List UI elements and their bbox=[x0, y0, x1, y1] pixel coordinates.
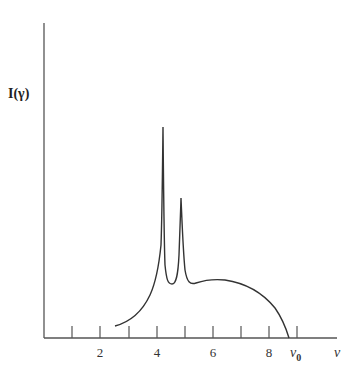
x-ticks bbox=[72, 326, 297, 338]
tick-label-8: 8 bbox=[266, 345, 273, 360]
spectrum-chart: 2 4 6 8 ν0 ν I(γ) bbox=[0, 0, 358, 374]
nu0-label: ν0 bbox=[290, 345, 301, 363]
tick-label-6: 6 bbox=[210, 345, 217, 360]
spectrum-curve bbox=[115, 127, 289, 338]
x-axis-label: ν bbox=[334, 345, 341, 360]
y-axis-label: I(γ) bbox=[8, 86, 30, 102]
tick-label-2: 2 bbox=[97, 345, 104, 360]
tick-label-4: 4 bbox=[154, 345, 161, 360]
